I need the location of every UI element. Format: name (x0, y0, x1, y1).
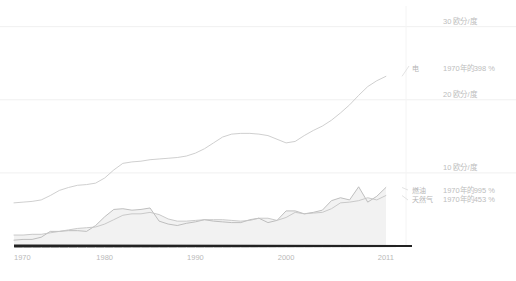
leader-line-natural-gas (402, 196, 408, 200)
y-tick-label-30: 30 欧分/度 (443, 16, 478, 26)
series-note-电: 1970年的398 % (443, 63, 495, 73)
x-axis-baseline (14, 244, 412, 247)
y-tick-label-20: 20 欧分/度 (443, 89, 478, 99)
series-label-电: 电 (412, 64, 419, 72)
x-tick-marks-group (14, 248, 386, 250)
series-note-燃油: 1970年的995 % (443, 185, 495, 195)
series-label-天然气: 天然气 (412, 195, 433, 204)
series-line-电 (14, 76, 386, 203)
x-tick-label-1970: 1970 (14, 253, 31, 262)
series-label-燃油: 燃油 (412, 186, 426, 195)
y-tick-label-10: 10 欧分/度 (443, 162, 478, 172)
x-axis-line (14, 244, 412, 247)
energy-price-chart: 19701980199020002011 10 欧分/度20 欧分/度30 欧分… (0, 0, 516, 281)
gridlines-group (0, 6, 516, 246)
x-axis-tick-labels: 19701980199020002011 (14, 253, 394, 262)
chart-canvas: 19701980199020002011 10 欧分/度20 欧分/度30 欧分… (0, 0, 516, 281)
x-tick-label-2011: 2011 (378, 253, 394, 262)
x-tick-label-1980: 1980 (96, 253, 113, 262)
series-note-天然气: 1970年的453 % (443, 194, 495, 204)
x-tick-label-2000: 2000 (278, 253, 295, 262)
leader-line-fuel-oil (402, 188, 408, 191)
y-axis-tick-labels: 10 欧分/度20 欧分/度30 欧分/度 (443, 16, 478, 172)
series-labels-group: 电1970年的398 %燃油1970年的995 %天然气1970年的453 % (412, 63, 495, 204)
area-fills-group (14, 187, 386, 246)
x-tick-label-1990: 1990 (187, 253, 204, 262)
